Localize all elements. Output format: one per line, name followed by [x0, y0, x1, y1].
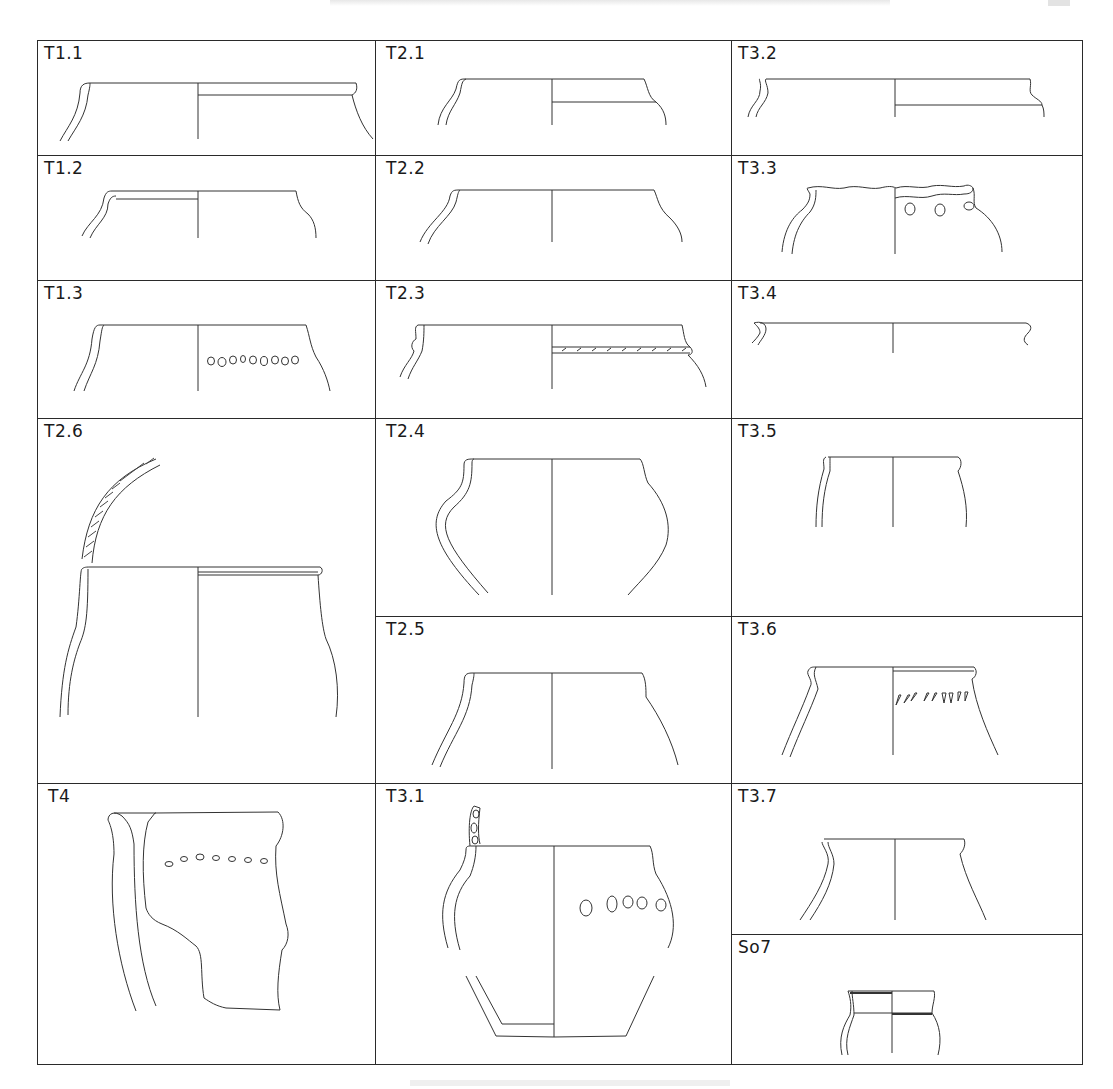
incised-rope-decoration: [562, 348, 686, 351]
impressed-dots: [208, 356, 299, 367]
cell-t3-3: T3.3: [731, 155, 1083, 281]
figure-caption: [410, 1080, 730, 1086]
cell-t2-6: T2.6: [37, 418, 376, 784]
rim-profile-drawing: [732, 156, 1084, 282]
cell-t2-2: T2.2: [375, 155, 732, 281]
cell-t3-1: T3.1: [375, 783, 732, 1065]
cell-t1-1: T1.1: [37, 40, 376, 156]
cell-t3-4: T3.4: [731, 280, 1083, 419]
cell-t2-1: T2.1: [375, 40, 732, 156]
rim-profile-drawing: [732, 281, 1084, 420]
vessel-profile-drawing: [38, 419, 377, 785]
cell-t3-7: T3.7: [731, 783, 1083, 935]
twisted-cord-decoration: [84, 458, 154, 557]
running-head: [330, 0, 890, 6]
page-number: [1048, 0, 1070, 6]
vessel-profile-drawing: [376, 419, 733, 618]
cell-t2-5: T2.5: [375, 616, 732, 784]
cell-t2-3: T2.3: [375, 280, 732, 419]
cell-t1-3: T1.3: [37, 280, 376, 419]
cell-t3-5: T3.5: [731, 418, 1083, 617]
vessel-profile-drawing: [376, 784, 733, 1066]
impressed-dots: [165, 854, 268, 867]
sherd-drawing: [38, 784, 377, 1066]
wavy-rim: [808, 185, 973, 188]
cell-t2-4: T2.4: [375, 418, 732, 617]
vessel-profile-drawing: [732, 419, 1084, 618]
rim-profile-drawing: [38, 41, 377, 157]
rim-profile-drawing: [376, 156, 733, 282]
rim-profile-drawing: [732, 41, 1084, 157]
vessel-profile-drawing: [376, 617, 733, 785]
incised-wedge-decoration: [896, 692, 968, 705]
cell-so7: So7: [731, 934, 1083, 1065]
rim-profile-drawing: [38, 281, 377, 420]
vessel-profile-drawing: [732, 935, 1084, 1066]
rim-profile-drawing: [376, 281, 733, 420]
rim-profile-drawing: [38, 156, 377, 282]
impressed-dots: [905, 202, 974, 216]
vessel-profile-drawing: [732, 617, 1084, 785]
cell-t3-6: T3.6: [731, 616, 1083, 784]
cell-t4: T4: [37, 783, 376, 1065]
cell-t3-2: T3.2: [731, 40, 1083, 156]
rim-profile-drawing: [376, 41, 733, 157]
impressed-dots: [580, 896, 666, 916]
vessel-profile-drawing: [732, 784, 1084, 936]
cell-t1-2: T1.2: [37, 155, 376, 281]
